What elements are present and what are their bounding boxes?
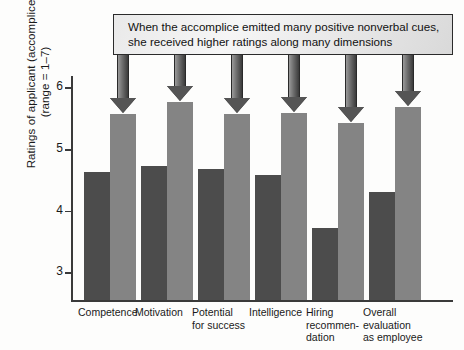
chart-canvas: Ratings of applicant (accomplice) (range…: [0, 0, 464, 350]
bar-group-2: [198, 114, 250, 300]
arrow-head-5: [395, 91, 421, 106]
y-tick-5: [65, 149, 72, 151]
x-axis-label-4-line-1: recommen-: [306, 319, 359, 332]
bar-group-0: [84, 114, 136, 300]
annotation-arrow-5: [395, 55, 421, 107]
x-axis-label-4-line-2: dation: [306, 331, 359, 344]
callout-line-2: she received higher ratings along many d…: [128, 35, 452, 50]
y-tick-4: [65, 211, 72, 213]
bar-group-4: [312, 123, 364, 300]
x-axis-label-3-line-0: Intelligence: [249, 306, 302, 319]
x-axis-label-2: Potentialfor success: [192, 306, 245, 331]
bar-0-0: [84, 172, 110, 300]
arrow-head-0: [110, 98, 136, 113]
x-axis-label-5: Overallevaluationas employee: [363, 306, 423, 344]
bar-3-1: [281, 113, 307, 300]
bar-2-1: [224, 114, 250, 300]
arrow-shaft-0: [117, 55, 129, 98]
x-axis-label-5-line-0: Overall: [363, 306, 423, 319]
arrow-head-1: [167, 86, 193, 101]
annotation-arrow-3: [281, 55, 307, 113]
bar-group-1: [141, 102, 193, 300]
x-axis-label-4-line-0: Hiring: [306, 306, 359, 319]
bar-group-3: [255, 113, 307, 300]
arrow-shaft-1: [174, 55, 186, 86]
y-tick-6: [65, 87, 72, 89]
arrow-head-4: [338, 107, 364, 122]
x-axis-label-1-line-0: Motivation: [135, 306, 183, 319]
arrow-shaft-2: [231, 55, 243, 98]
bar-5-0: [369, 192, 395, 300]
x-axis-label-3: Intelligence: [249, 306, 302, 319]
bar-1-0: [141, 166, 167, 300]
y-tick-label-6: 6: [45, 79, 63, 93]
bar-2-0: [198, 169, 224, 300]
annotation-arrow-2: [224, 55, 250, 114]
arrow-shaft-3: [288, 55, 300, 97]
bar-4-0: [312, 228, 338, 300]
x-axis-label-2-line-1: for success: [192, 319, 245, 332]
x-axis-label-2-line-0: Potential: [192, 306, 245, 319]
arrow-shaft-4: [345, 55, 357, 107]
callout-line-1: When the accomplice emitted many positiv…: [128, 20, 452, 35]
annotation-arrow-1: [167, 55, 193, 102]
annotation-arrow-4: [338, 55, 364, 123]
bar-0-1: [110, 114, 136, 300]
x-axis-label-5-line-2: as employee: [363, 331, 423, 344]
bar-3-0: [255, 175, 281, 300]
y-tick-label-3: 3: [45, 264, 63, 278]
y-tick-label-5: 5: [45, 141, 63, 155]
x-axis-label-5-line-1: evaluation: [363, 319, 423, 332]
arrow-head-2: [224, 98, 250, 113]
bar-4-1: [338, 123, 364, 300]
x-axis-label-1: Motivation: [135, 306, 183, 319]
y-axis-title: Ratings of applicant (accomplice) (range…: [26, 0, 50, 202]
arrow-shaft-5: [402, 55, 414, 91]
bar-1-1: [167, 102, 193, 300]
x-axis-line: [71, 300, 453, 302]
y-tick-label-4: 4: [45, 203, 63, 217]
bar-group-5: [369, 107, 421, 300]
annotation-arrow-0: [110, 55, 136, 114]
x-axis-label-0-line-0: Competence: [78, 306, 138, 319]
x-axis-label-4: Hiringrecommen-dation: [306, 306, 359, 344]
bar-5-1: [395, 107, 421, 300]
y-axis-title-line1: Ratings of applicant (accomplice): [24, 0, 38, 168]
x-axis-label-0: Competence: [78, 306, 138, 319]
annotation-callout: When the accomplice emitted many positiv…: [113, 14, 453, 55]
arrow-head-3: [281, 97, 307, 112]
y-tick-3: [65, 272, 72, 274]
